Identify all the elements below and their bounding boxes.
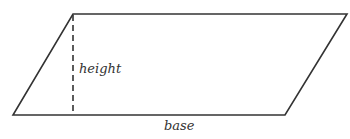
parallelogram-shape xyxy=(13,14,347,115)
height-label: height xyxy=(79,61,122,76)
base-label: base xyxy=(164,118,195,133)
parallelogram-diagram: height base xyxy=(0,0,350,139)
